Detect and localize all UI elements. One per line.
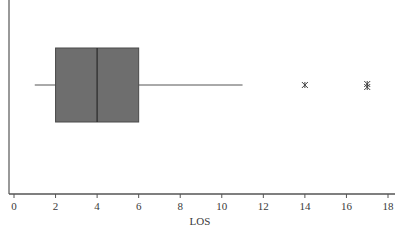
x-tick-label: 0 bbox=[11, 200, 17, 212]
x-tick-label: 2 bbox=[53, 200, 59, 212]
x-tick-label: 4 bbox=[94, 200, 100, 212]
x-axis-tick-labels: 024681012141618 bbox=[11, 200, 394, 212]
x-tick-label: 16 bbox=[341, 200, 353, 212]
x-tick-label: 10 bbox=[216, 200, 228, 212]
box-plot-chart: 024681012141618 LOS bbox=[0, 0, 404, 236]
outlier-markers bbox=[302, 81, 370, 90]
outlier-marker-icon bbox=[364, 84, 370, 90]
outlier-marker-icon bbox=[302, 82, 308, 88]
x-axis-title: LOS bbox=[190, 215, 211, 227]
x-tick-label: 6 bbox=[136, 200, 142, 212]
x-tick-label: 8 bbox=[177, 200, 183, 212]
x-tick-label: 14 bbox=[299, 200, 311, 212]
x-tick-label: 12 bbox=[258, 200, 269, 212]
x-tick-label: 18 bbox=[383, 200, 395, 212]
box-plot bbox=[35, 48, 370, 122]
